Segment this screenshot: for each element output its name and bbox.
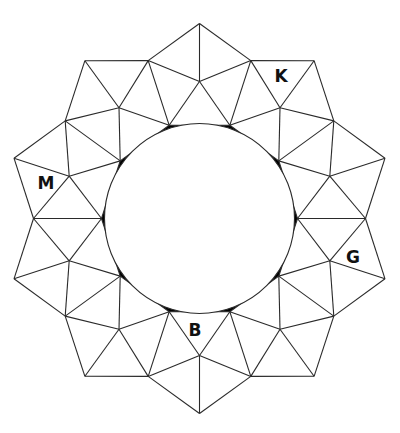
label-k: K — [274, 66, 288, 86]
mid-shoulder-edge — [65, 261, 69, 316]
mid-apex-edge — [85, 61, 119, 108]
shoulder-apex-edge — [334, 121, 385, 158]
shoulder-apex-edge — [334, 279, 385, 316]
shoulder-inner-edge — [279, 276, 334, 316]
mid-shoulder-edge — [200, 61, 251, 82]
shoulder-apex-edge — [14, 158, 34, 218]
mid-inner-edge — [200, 82, 230, 126]
label-g: G — [346, 247, 360, 267]
shoulder-apex-edge — [366, 219, 386, 279]
mid-inner-edge — [279, 161, 330, 176]
shoulder-apex-edge — [200, 376, 251, 413]
mid-shoulder-edge — [330, 176, 366, 218]
mid-shoulder-edge — [251, 329, 280, 376]
mid-inner-edge — [200, 312, 230, 356]
mid-inner-edge — [169, 82, 199, 126]
mid-shoulder-edge — [148, 356, 199, 377]
mid-apex-edge — [330, 158, 385, 176]
shoulder-inner-edge — [279, 121, 334, 161]
inner-circle — [105, 124, 295, 314]
shoulder-apex-edge — [65, 316, 85, 376]
shoulder-apex-edge — [314, 61, 334, 121]
mid-inner-edge — [119, 312, 169, 330]
mid-inner-edge — [119, 108, 120, 161]
mid-inner-edge — [279, 261, 330, 276]
shoulder-apex-edge — [148, 376, 199, 413]
mid-shoulder-edge — [34, 219, 70, 261]
shoulder-inner-edge — [65, 276, 120, 316]
mid-inner-edge — [69, 219, 101, 261]
shoulder-inner-edge — [148, 312, 169, 377]
mid-apex-edge — [14, 261, 69, 279]
mid-inner-edge — [69, 176, 101, 218]
mid-apex-edge — [280, 329, 314, 376]
tiling-diagram: K M G B — [0, 0, 400, 433]
mid-shoulder-edge — [65, 121, 69, 176]
shoulder-inner-edge — [230, 312, 251, 377]
shoulder-inner-edge — [230, 61, 251, 126]
mid-inner-edge — [69, 261, 120, 276]
mid-apex-edge — [85, 329, 119, 376]
shoulder-apex-edge — [314, 316, 334, 376]
mid-shoulder-edge — [200, 356, 251, 377]
shoulder-apex-edge — [14, 279, 65, 316]
mid-inner-edge — [298, 176, 330, 218]
shoulder-apex-edge — [14, 219, 34, 279]
label-b: B — [189, 320, 202, 340]
mid-shoulder-edge — [330, 121, 334, 176]
shoulder-apex-edge — [14, 121, 65, 158]
mid-inner-edge — [119, 276, 120, 329]
mid-shoulder-edge — [119, 329, 148, 376]
mid-inner-edge — [69, 161, 120, 176]
mid-inner-edge — [279, 108, 280, 161]
mid-inner-edge — [230, 312, 280, 330]
mid-shoulder-edge — [65, 108, 119, 121]
shoulder-apex-edge — [148, 24, 199, 61]
mid-shoulder-edge — [119, 61, 148, 108]
mid-shoulder-edge — [330, 261, 334, 316]
shoulder-inner-edge — [148, 61, 169, 126]
mid-inner-edge — [298, 219, 330, 261]
mid-inner-edge — [230, 108, 280, 126]
shoulder-apex-edge — [65, 61, 85, 121]
mid-shoulder-edge — [65, 316, 119, 329]
shoulder-apex-edge — [366, 158, 386, 218]
shoulder-apex-edge — [200, 24, 251, 61]
mid-inner-edge — [279, 276, 280, 329]
label-m: M — [38, 173, 55, 193]
mid-shoulder-edge — [280, 108, 334, 121]
mid-shoulder-edge — [148, 61, 199, 82]
mid-shoulder-edge — [280, 316, 334, 329]
mid-inner-edge — [119, 108, 169, 126]
shoulder-inner-edge — [65, 121, 120, 161]
